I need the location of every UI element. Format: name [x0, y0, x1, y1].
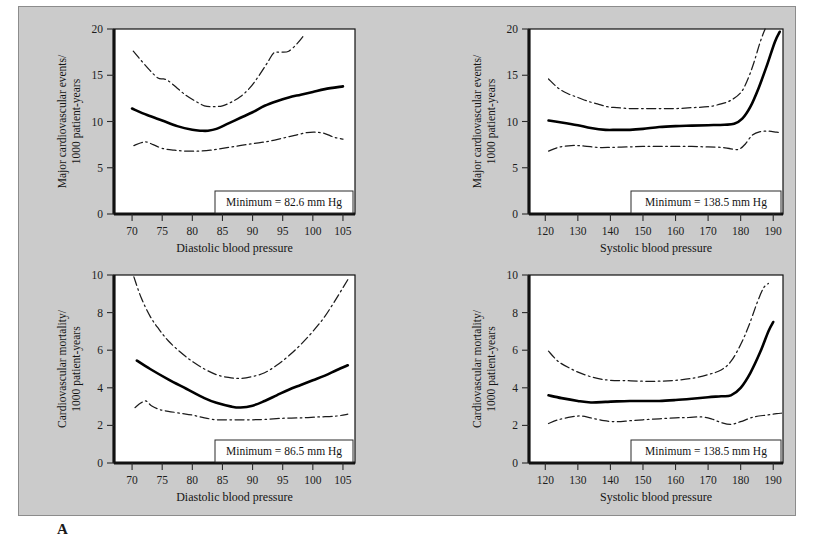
x-tick-label: 180 [732, 474, 750, 486]
bottom-right-x-axis-title: Systolic blood pressure [600, 490, 712, 504]
chart-top-right: 05101520120130140150160170180190Systolic… [419, 7, 797, 257]
top-right-minimum-annotation: Minimum = 138.5 mm Hg [631, 191, 781, 213]
y-axis-title-line2: 1000 patient-years [70, 326, 83, 412]
chart-bottom-left: 0246810707580859095100105Diastolic blood… [19, 250, 379, 500]
x-tick-label: 150 [634, 474, 652, 486]
y-tick-label: 2 [512, 419, 518, 431]
y-tick-label: 20 [507, 23, 519, 35]
bottom-left-x-axis-title: Diastolic blood pressure [176, 490, 293, 504]
x-tick-label: 90 [247, 225, 259, 237]
x-tick-label: 85 [217, 474, 229, 486]
x-tick-label: 90 [247, 474, 259, 486]
x-tick-label: 70 [126, 474, 138, 486]
x-tick-label: 80 [187, 225, 199, 237]
chart-top-left: 05101520707580859095100105Diastolic bloo… [19, 7, 379, 257]
annotation-text: Minimum = 82.6 mm Hg [226, 196, 342, 209]
x-tick-label: 170 [699, 225, 717, 237]
y-axis-title-line2: 1000 patient-years [485, 78, 498, 164]
bottom-left-y-axis-title: Cardiovascular mortality/1000 patient-ye… [56, 309, 83, 428]
bottom-left-y-ticks: 0246810 [92, 269, 115, 469]
y-axis-title-line2: 1000 patient-years [70, 78, 83, 164]
y-tick-label: 15 [92, 69, 104, 81]
x-tick-label: 75 [156, 225, 168, 237]
panel-letter-label: A [57, 521, 68, 538]
y-tick-label: 8 [512, 307, 518, 319]
bottom-left-minimum-annotation: Minimum = 86.5 mm Hg [215, 440, 353, 462]
annotation-text: Minimum = 86.5 mm Hg [226, 445, 342, 458]
y-tick-label: 20 [92, 23, 104, 35]
y-tick-label: 10 [92, 269, 104, 281]
x-tick-label: 100 [304, 225, 322, 237]
y-tick-label: 0 [97, 208, 103, 220]
bottom-right-y-axis-title: Cardiovascular mortality/1000 patient-ye… [471, 309, 498, 428]
x-tick-label: 160 [667, 474, 685, 486]
y-axis-title-line2: 1000 patient-years [485, 326, 498, 412]
bottom-right-y-ticks: 0246810 [507, 269, 530, 469]
panel-top-left: 05101520707580859095100105Diastolic bloo… [19, 7, 379, 257]
chart-bottom-right-content: 0246810120130140150160170180190Systolic … [471, 269, 783, 504]
top-right-plot-area [529, 29, 783, 214]
y-tick-label: 6 [97, 344, 103, 356]
x-tick-label: 85 [217, 225, 229, 237]
top-right-y-axis-title: Major cardiovascular events/1000 patient… [471, 54, 498, 188]
x-tick-label: 95 [277, 225, 289, 237]
top-left-x-ticks: 707580859095100105 [126, 214, 352, 237]
annotation-text: Minimum = 138.5 mm Hg [645, 445, 767, 458]
x-tick-label: 130 [569, 474, 587, 486]
x-tick-label: 160 [667, 225, 685, 237]
y-tick-label: 0 [512, 208, 518, 220]
figure-plate: 05101520707580859095100105Diastolic bloo… [18, 6, 796, 516]
x-tick-label: 130 [569, 225, 587, 237]
y-tick-label: 10 [92, 116, 104, 128]
x-tick-label: 190 [765, 474, 783, 486]
y-axis-title-line1: Major cardiovascular events/ [56, 54, 69, 188]
x-tick-label: 100 [304, 474, 322, 486]
y-tick-label: 0 [97, 457, 103, 469]
top-left-minimum-annotation: Minimum = 82.6 mm Hg [215, 191, 353, 213]
bottom-right-x-ticks: 120130140150160170180190 [537, 463, 782, 486]
x-tick-label: 170 [699, 474, 717, 486]
x-tick-label: 95 [277, 474, 289, 486]
chart-bottom-left-content: 0246810707580859095100105Diastolic blood… [56, 269, 355, 504]
x-tick-label: 140 [602, 474, 620, 486]
y-tick-label: 15 [507, 69, 519, 81]
y-tick-label: 4 [97, 382, 103, 394]
annotation-text: Minimum = 138.5 mm Hg [645, 196, 767, 209]
x-tick-label: 150 [634, 225, 652, 237]
top-left-y-axis-title: Major cardiovascular events/1000 patient… [56, 54, 83, 188]
top-left-y-ticks: 05101520 [92, 23, 115, 220]
top-right-x-ticks: 120130140150160170180190 [537, 214, 782, 237]
top-right-y-ticks: 05101520 [507, 23, 530, 220]
x-tick-label: 80 [187, 474, 199, 486]
x-tick-label: 105 [334, 474, 352, 486]
y-axis-title-line1: Major cardiovascular events/ [471, 54, 484, 188]
y-tick-label: 10 [507, 116, 519, 128]
panel-top-right: 05101520120130140150160170180190Systolic… [419, 7, 797, 257]
x-tick-label: 70 [126, 225, 138, 237]
x-tick-label: 140 [602, 225, 620, 237]
x-tick-label: 120 [537, 225, 555, 237]
y-tick-label: 5 [97, 162, 103, 174]
chart-top-right-content: 05101520120130140150160170180190Systolic… [471, 23, 783, 255]
x-tick-label: 75 [156, 474, 168, 486]
panel-bottom-right: 0246810120130140150160170180190Systolic … [419, 250, 797, 500]
y-tick-label: 2 [97, 419, 103, 431]
x-tick-label: 105 [334, 225, 352, 237]
y-axis-title-line1: Cardiovascular mortality/ [471, 309, 484, 428]
panel-bottom-left: 0246810707580859095100105Diastolic blood… [19, 250, 379, 500]
y-tick-label: 4 [512, 382, 518, 394]
bottom-left-x-ticks: 707580859095100105 [126, 463, 352, 486]
figure-root: 05101520707580859095100105Diastolic bloo… [0, 0, 814, 544]
y-axis-title-line1: Cardiovascular mortality/ [56, 309, 69, 428]
y-tick-label: 0 [512, 457, 518, 469]
chart-top-left-content: 05101520707580859095100105Diastolic bloo… [56, 23, 355, 255]
chart-bottom-right: 0246810120130140150160170180190Systolic … [419, 250, 797, 500]
bottom-right-minimum-annotation: Minimum = 138.5 mm Hg [631, 440, 781, 462]
y-tick-label: 8 [97, 307, 103, 319]
x-tick-label: 180 [732, 225, 750, 237]
x-tick-label: 120 [537, 474, 555, 486]
y-tick-label: 6 [512, 344, 518, 356]
x-tick-label: 190 [765, 225, 783, 237]
y-tick-label: 5 [512, 162, 518, 174]
bottom-right-plot-area [529, 275, 783, 463]
